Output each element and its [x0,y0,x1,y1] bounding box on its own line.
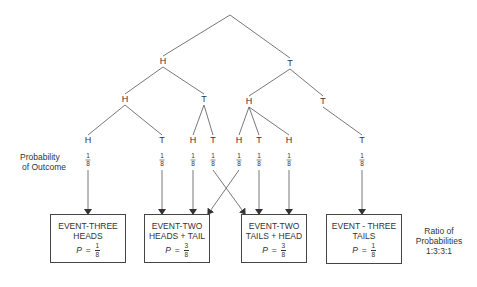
event-title: EVENT-TWO [242,221,306,231]
ratio-value: 1:3:3:1 [412,246,466,256]
denominator: 8 [372,251,376,258]
ratio-label-line2: Probabilities [412,236,466,246]
p-variable: P [76,245,82,255]
leaf-prob-numerator: 1 [360,152,364,159]
probability-label-line2: of Outcome [20,162,66,172]
event-probability: P=18 [51,242,125,258]
heads-node: H [236,135,243,145]
equals-sign: = [86,245,91,255]
branch-leaf-3 [204,105,213,135]
event-title: EVENT-THREE [51,221,125,231]
probability-label-line1: Probability [20,152,66,162]
tails-node: T [287,58,293,68]
denominator: 8 [282,251,286,258]
outcome-arrow-3 [213,170,245,214]
leaf-prob-denominator: 8 [211,160,215,167]
branch-root-0 [163,15,230,56]
denominator: 8 [96,251,100,258]
probability-fraction: 18 [371,242,376,258]
event-box-0: EVENT-THREEHEADSP=18 [50,214,126,263]
leaf-prob-numerator: 1 [237,152,241,159]
leaf-prob-denominator: 8 [191,160,195,167]
tree-branches [88,15,362,135]
probability-fraction: 18 [95,242,100,258]
branch-l2-3 [290,69,323,96]
event-subtitle: HEADS [51,231,125,241]
outcome-arrows [88,170,362,214]
tails-node: T [210,135,216,145]
tails-node: T [201,94,207,104]
numerator: 3 [282,242,286,249]
leaf-prob-denominator: 8 [360,160,364,167]
leaf-prob-denominator: 8 [237,160,241,167]
equals-sign: = [362,245,367,255]
tails-node: T [320,96,326,106]
branch-l2-0 [125,67,163,94]
heads-node: H [160,56,167,66]
p-variable: P [262,245,268,255]
tree-nodes: HTHTHTHTHTHTHT1818181818181818 [85,56,366,167]
leaf-prob-denominator: 8 [86,160,90,167]
leaf-prob-denominator: 8 [287,160,291,167]
ratio-label-line1: Ratio of [412,226,466,236]
event-subtitle: TAILS + HEAD [242,231,306,241]
branch-leaf-7 [323,107,362,135]
event-subtitle: TAILS [327,231,401,241]
event-subtitle: HEADS + TAIL [145,231,209,241]
outcome-arrow-4 [208,170,239,214]
branch-l2-1 [163,67,204,94]
event-probability: P=38 [242,242,306,258]
heads-node: H [122,94,129,104]
event-box-3: EVENT - THREETAILSP=18 [326,214,402,264]
heads-node: H [286,135,293,145]
leaf-prob-denominator: 8 [257,160,261,167]
branch-l2-2 [249,69,290,96]
leaf-prob-numerator: 1 [86,152,90,159]
event-box-1: EVENT-TWOHEADS + TAILP=38 [144,214,210,263]
branch-leaf-0 [88,105,125,135]
branch-leaf-2 [193,105,204,135]
ratio-of-probabilities-label: Ratio of Probabilities 1:3:3:1 [412,226,466,256]
event-probability: P=38 [145,242,209,258]
probability-of-outcome-label: Probability of Outcome [20,152,66,172]
branch-leaf-6 [249,107,289,135]
leaf-prob-numerator: 1 [211,152,215,159]
tails-node: T [159,135,165,145]
numerator: 1 [372,242,376,249]
heads-node: H [190,135,197,145]
branch-leaf-5 [249,107,259,135]
tails-node: T [359,135,365,145]
event-box-2: EVENT-TWOTAILS + HEADP=38 [241,214,307,263]
tails-node: T [256,135,262,145]
leaf-prob-numerator: 1 [287,152,291,159]
leaf-prob-numerator: 1 [160,152,164,159]
heads-node: H [85,135,92,145]
branch-leaf-1 [125,105,162,135]
heads-node: H [246,96,253,106]
p-variable: P [352,245,358,255]
leaf-prob-denominator: 8 [160,160,164,167]
denominator: 8 [185,251,189,258]
numerator: 3 [185,242,189,249]
probability-fraction: 38 [184,242,189,258]
event-probability: P=18 [327,242,401,258]
equals-sign: = [175,245,180,255]
equals-sign: = [272,245,277,255]
leaf-prob-numerator: 1 [191,152,195,159]
probability-fraction: 38 [281,242,286,258]
event-title: EVENT-TWO [145,221,209,231]
p-variable: P [165,245,171,255]
leaf-prob-numerator: 1 [257,152,261,159]
event-title: EVENT - THREE [327,221,401,231]
numerator: 1 [96,242,100,249]
branch-root-1 [230,15,290,58]
branch-leaf-4 [239,107,249,135]
